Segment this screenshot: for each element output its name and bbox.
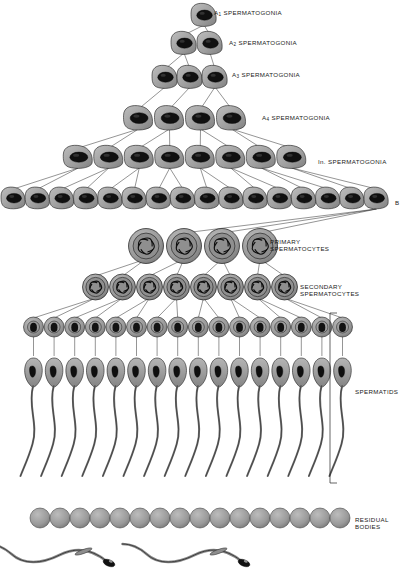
label-a1: A1 SPERMATOGONIA bbox=[214, 9, 282, 19]
label-intermediate: In. SPERMATOGONIA bbox=[318, 158, 387, 166]
label-secondary-spermatocytes: SECONDARYSPERMATOCYTES bbox=[300, 283, 359, 297]
label-line2: SPERMATOCYTES bbox=[300, 290, 359, 297]
label-line2: BODIES bbox=[355, 523, 380, 530]
label-line2: SPERMATOCYTES bbox=[270, 245, 329, 252]
label-spermatids: SPERMATIDS bbox=[355, 388, 398, 395]
label-a3: A3 SPERMATOGONIA bbox=[232, 71, 300, 81]
label-primary-spermatocytes: PRIMARYSPERMATOCYTES bbox=[270, 238, 329, 252]
label-line1: SPERMATIDS bbox=[355, 388, 398, 395]
label-suffix: SPERMATOGONIA bbox=[221, 9, 282, 16]
label-line1: PRIMARY bbox=[270, 238, 301, 245]
label-a4: A4 SPERMATOGONIA bbox=[262, 114, 330, 124]
label-suffix: SPERMATOGONIA bbox=[239, 71, 300, 78]
label-residual-bodies: RESIDUALBODIES bbox=[355, 516, 389, 530]
label-suffix: SPERMATOGONIA bbox=[236, 39, 297, 46]
label-line1: SECONDARY bbox=[300, 283, 342, 290]
label-line1: RESIDUAL bbox=[355, 516, 389, 523]
label-a2: A2 SPERMATOGONIA bbox=[229, 39, 297, 49]
label-b: B bbox=[395, 199, 399, 207]
label-suffix: SPERMATOGONIA bbox=[269, 114, 330, 121]
